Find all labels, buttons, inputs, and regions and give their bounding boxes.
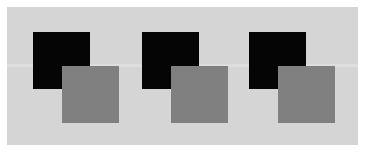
mid-square-1: [62, 66, 119, 123]
shape-group-3: [249, 7, 335, 145]
figure-canvas: [0, 0, 368, 154]
mid-square-2: [171, 66, 228, 123]
mid-square-3: [278, 66, 335, 123]
figure-panel: [7, 7, 358, 145]
shape-group-2: [142, 7, 228, 145]
shape-group-1: [33, 7, 119, 145]
